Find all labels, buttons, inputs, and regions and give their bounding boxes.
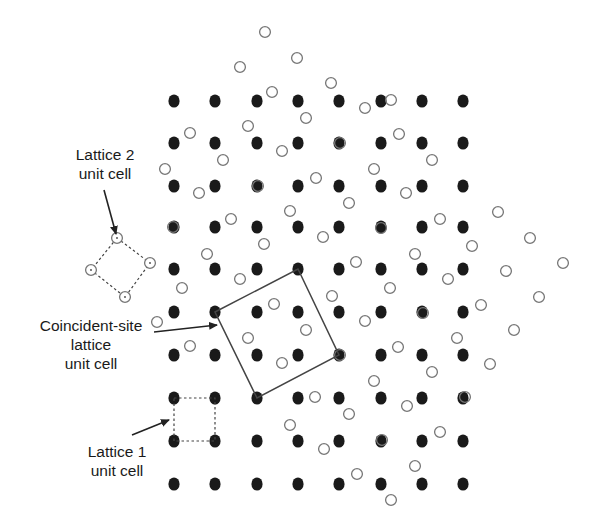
lattice-1-point	[168, 179, 179, 192]
lattice-1-point	[416, 348, 427, 361]
lattice-1-point	[375, 179, 386, 192]
lattice-2-point	[534, 292, 545, 303]
lattice-1-point	[375, 348, 386, 361]
lattice-1-point	[375, 391, 386, 404]
lattice-1-point	[457, 262, 468, 275]
lattice-1-point	[416, 434, 427, 447]
lattice-1-label-line1: Lattice 1	[72, 442, 162, 461]
lattice-2-point	[260, 27, 271, 38]
lattice-2-point	[310, 392, 321, 403]
lattice-1-point	[251, 477, 262, 490]
lattice-2-point	[277, 358, 288, 369]
lattice-2-point	[235, 62, 246, 73]
lattice-1-point	[375, 94, 386, 107]
lattice-2-point	[351, 257, 362, 268]
lattice-1-point	[251, 348, 262, 361]
lattice-1-point	[251, 136, 262, 149]
lattice-1-label: Lattice 1 unit cell	[72, 442, 162, 480]
lattice-1-point	[168, 305, 179, 318]
lattice-1-arrow	[132, 420, 169, 435]
lattice-1-point	[457, 434, 468, 447]
lattice-2-point	[476, 300, 487, 311]
lattice-1-point	[292, 136, 303, 149]
lattice-1-point	[416, 179, 427, 192]
lattice-2-point	[401, 188, 412, 199]
lattice-2-point	[386, 95, 397, 106]
lattice-2-point	[267, 87, 278, 98]
lattice-1-point	[168, 94, 179, 107]
lattice-1-point	[292, 220, 303, 233]
lattice-1-point	[375, 477, 386, 490]
csl-label-line2: lattice	[28, 335, 154, 354]
lattice-2-point	[385, 283, 396, 294]
lattice-1-point	[333, 391, 344, 404]
lattice-1-point	[292, 179, 303, 192]
lattice-1-point	[333, 262, 344, 275]
lattice-1-point	[457, 94, 468, 107]
lattice-1-point	[251, 305, 262, 318]
lattice-1-point	[168, 348, 179, 361]
csl-label-line1: Coincident-site	[28, 316, 154, 335]
lattice-2-point	[402, 401, 413, 412]
lattice-2-point	[269, 299, 280, 310]
lattice-2-point	[319, 444, 330, 455]
lattice-1-point	[292, 94, 303, 107]
lattice-1-point	[168, 262, 179, 275]
lattice-1-points	[168, 94, 468, 490]
lattice-1-point	[209, 348, 220, 361]
lattice-1-point	[375, 136, 386, 149]
lattice-1-point	[209, 220, 220, 233]
lattice-2-point	[467, 241, 478, 252]
lattice-1-label-line2: unit cell	[72, 461, 162, 480]
lattice-1-point	[375, 262, 386, 275]
lattice-1-point	[333, 477, 344, 490]
lattice-2-point	[501, 266, 512, 277]
lattice-1-point	[209, 94, 220, 107]
lattice-2-point	[410, 461, 421, 472]
lattice-1-point	[457, 477, 468, 490]
lattice-1-point	[416, 220, 427, 233]
lattice-1-point	[292, 391, 303, 404]
lattice-2-point	[369, 376, 380, 387]
lattice-2-point	[285, 206, 296, 217]
lattice-2-label-line1: Lattice 2	[60, 145, 150, 164]
lattice-2-point	[243, 121, 254, 132]
lattice-1-point	[251, 94, 262, 107]
csl-arrow	[154, 325, 217, 332]
lattice-2-point	[443, 274, 454, 285]
lattice-1-point	[251, 220, 262, 233]
lattice-2-point	[344, 409, 355, 420]
lattice-2-point	[218, 155, 229, 166]
lattice-2-label: Lattice 2 unit cell	[60, 145, 150, 183]
lattice-2-point	[360, 103, 371, 114]
lattice-1-point	[209, 262, 220, 275]
lattice-1-point	[292, 477, 303, 490]
lattice-2-point	[558, 258, 569, 269]
lattice-2-point	[160, 164, 171, 175]
lattice-1-point	[251, 434, 262, 447]
lattice-2-point	[259, 239, 270, 250]
lattice-2-unit-cell-points	[86, 233, 156, 303]
lattice-1-point	[457, 305, 468, 318]
lattice-1-unit-cell	[174, 398, 215, 441]
lattice-1-point	[416, 391, 427, 404]
lattice-2-point	[360, 316, 371, 327]
lattice-2-point	[202, 249, 213, 260]
lattice-1-point	[333, 179, 344, 192]
lattice-1-point	[333, 94, 344, 107]
lattice-2-point	[485, 359, 496, 370]
lattice-2-point	[285, 420, 296, 431]
lattice-2-point	[301, 113, 312, 124]
lattice-2-point	[394, 129, 405, 140]
lattice-2-point	[327, 291, 338, 302]
lattice-1-point	[168, 136, 179, 149]
lattice-1-point	[457, 348, 468, 361]
lattice-1-point	[416, 136, 427, 149]
lattice-2-point	[435, 214, 446, 225]
lattice-1-point	[251, 262, 262, 275]
lattice-1-point	[168, 477, 179, 490]
lattice-1-point	[333, 220, 344, 233]
lattice-2-point	[226, 214, 237, 225]
lattice-2-point	[427, 155, 438, 166]
lattice-2-point	[344, 198, 355, 209]
